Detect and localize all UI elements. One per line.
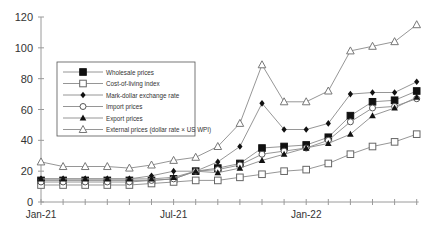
open-square-marker-icon — [369, 143, 376, 150]
open-triangle-marker-icon — [81, 163, 89, 170]
filled-square-marker-icon — [259, 145, 266, 152]
filled-diamond-marker-icon — [171, 168, 176, 175]
y-tick-label: 100 — [15, 42, 33, 54]
open-triangle-marker-icon — [413, 21, 421, 28]
open-triangle-marker-icon — [325, 87, 333, 94]
filled-diamond-marker-icon — [414, 78, 419, 85]
open-square-marker-icon — [281, 168, 288, 175]
open-circle-marker-icon — [80, 104, 86, 110]
open-square-marker-icon — [413, 131, 420, 138]
legend-label: Cost-of-living index — [106, 80, 160, 88]
open-circle-marker-icon — [347, 119, 353, 125]
x-tick-label: Jan-21 — [26, 209, 57, 220]
open-triangle-marker-icon — [258, 61, 266, 68]
open-square-marker-icon — [192, 177, 199, 184]
open-square-marker-icon — [259, 171, 266, 178]
filled-diamond-marker-icon — [215, 159, 220, 166]
open-triangle-marker-icon — [104, 163, 112, 170]
open-square-marker-icon — [325, 160, 332, 167]
filled-square-marker-icon — [391, 97, 398, 104]
legend-label: Mark-dollar exchange rate — [106, 92, 180, 100]
y-tick-label: 0 — [27, 196, 33, 208]
filled-diamond-marker-icon — [370, 89, 375, 96]
filled-diamond-marker-icon — [304, 126, 309, 133]
y-tick-label: 60 — [21, 104, 33, 116]
open-square-marker-icon — [347, 151, 354, 158]
filled-diamond-marker-icon — [392, 89, 397, 96]
open-triangle-marker-icon — [302, 98, 310, 105]
line-chart: 020406080100120Jan-21Jul-21Jan-22 Wholes… — [0, 0, 440, 232]
filled-square-marker-icon — [80, 69, 87, 76]
series-line — [38, 131, 420, 188]
open-square-marker-icon — [391, 139, 398, 146]
series-path — [41, 134, 417, 185]
open-circle-marker-icon — [370, 105, 376, 111]
legend: Wholesale pricesCost-of-living indexMark… — [57, 62, 211, 136]
x-tick-label: Jul-21 — [160, 209, 188, 220]
filled-square-marker-icon — [347, 112, 354, 119]
open-square-marker-icon — [237, 174, 244, 181]
y-tick-label: 120 — [15, 11, 33, 23]
y-tick-label: 80 — [21, 73, 33, 85]
legend-label: External prices (dollar rate × US WPI) — [106, 126, 211, 134]
open-square-marker-icon — [215, 177, 222, 184]
open-triangle-marker-icon — [37, 158, 45, 165]
y-tick-label: 40 — [21, 134, 33, 146]
open-square-marker-icon — [80, 80, 87, 87]
open-triangle-marker-icon — [192, 153, 200, 160]
open-circle-marker-icon — [259, 151, 265, 157]
open-square-marker-icon — [303, 166, 310, 173]
filled-diamond-marker-icon — [237, 143, 242, 150]
legend-label: Export prices — [106, 115, 143, 123]
filled-square-marker-icon — [413, 88, 420, 95]
open-triangle-marker-icon — [236, 119, 244, 126]
open-triangle-marker-icon — [391, 38, 399, 45]
filled-triangle-marker-icon — [347, 131, 354, 137]
filled-square-marker-icon — [369, 98, 376, 105]
legend-label: Wholesale prices — [106, 69, 154, 77]
chart-canvas: 020406080100120Jan-21Jul-21Jan-22 Wholes… — [0, 0, 440, 232]
open-triangle-marker-icon — [280, 98, 288, 105]
legend-label: Import prices — [106, 103, 142, 111]
y-tick-label: 20 — [21, 165, 33, 177]
x-tick-label: Jan-22 — [291, 209, 322, 220]
